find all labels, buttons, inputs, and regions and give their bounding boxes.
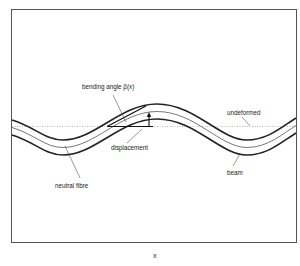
arrowhead-icon (147, 112, 151, 117)
beam-leader (233, 154, 240, 166)
x-axis-label: x (153, 251, 157, 260)
beam-label: beam (227, 169, 243, 176)
plot-frame (12, 10, 297, 243)
undeformed-label: undeformed (227, 109, 261, 116)
displacement-label: displacement (111, 144, 148, 152)
bending-angle-label: bending angle β(x) (82, 83, 134, 91)
neutral-fibre-line (12, 112, 296, 148)
tangent-line (107, 106, 146, 127)
neutral-fibre-label: neutral fibre (55, 182, 89, 189)
displacement-leader (127, 129, 142, 143)
beam-bending-diagram: bending angle β(x) undeformed displaceme… (0, 0, 300, 266)
beam-bottom-edge (12, 119, 296, 155)
undeformed-leader (242, 117, 250, 126)
neutral-fibre-leader (65, 146, 80, 178)
